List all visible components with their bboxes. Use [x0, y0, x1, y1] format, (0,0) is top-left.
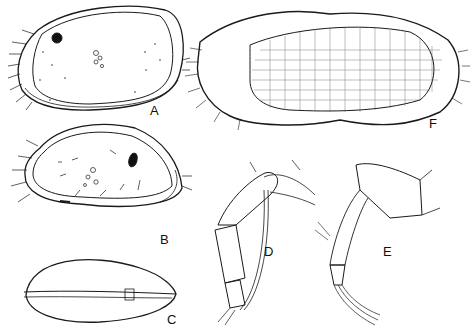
panel-d-appendage — [215, 160, 315, 325]
panel-c-dorsal — [24, 260, 176, 323]
panel-label-c: C — [167, 313, 176, 326]
panel-b-carapace — [11, 124, 192, 206]
panel-label-a: A — [150, 104, 159, 117]
panel-f-carapace — [185, 12, 470, 130]
panel-a-carapace — [8, 6, 190, 110]
panel-label-e: E — [383, 245, 392, 258]
figure-plate: A B C D E F — [0, 0, 470, 333]
panel-label-f: F — [429, 117, 437, 130]
illustration — [0, 0, 470, 333]
panel-label-d: D — [264, 245, 273, 258]
panel-e-appendage — [315, 164, 440, 325]
panel-label-b: B — [160, 233, 169, 246]
